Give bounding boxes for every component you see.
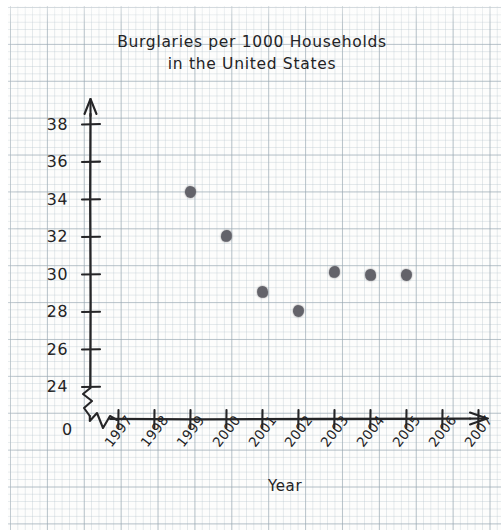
data-point-1999 (185, 186, 196, 198)
axes-ink-layer (0, 0, 504, 530)
origin-label: 0 (62, 420, 73, 439)
data-point-2002 (293, 305, 304, 317)
x-axis-title: Year (268, 477, 302, 495)
y-tick-label-24: 24 (24, 377, 68, 397)
y-tick-label-26: 26 (24, 340, 68, 360)
data-point-2005 (401, 269, 412, 281)
y-tick-label-30: 30 (24, 265, 68, 285)
y-axis-break-icon (83, 388, 92, 416)
chart-page: Burglaries per 1000 Households in the Un… (0, 0, 504, 530)
y-tick-label-38: 38 (24, 115, 68, 135)
y-tick-label-36: 36 (24, 152, 68, 172)
y-tick-label-34: 34 (24, 190, 68, 210)
y-tick-label-28: 28 (24, 302, 68, 322)
y-tick-label-32: 32 (24, 227, 68, 247)
y-tick-38 (82, 124, 100, 125)
